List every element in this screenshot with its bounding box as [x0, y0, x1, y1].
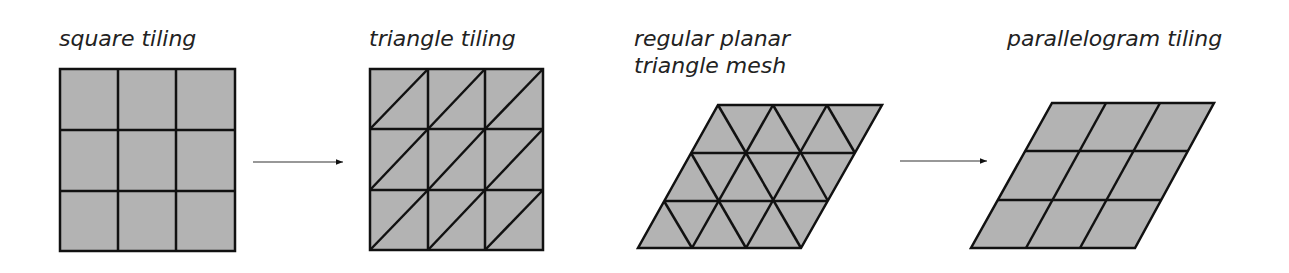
triangle-tiling [370, 69, 543, 250]
triangle-mesh [638, 105, 882, 248]
tiling-diagram [0, 0, 1289, 273]
parallelogram-tiling [971, 103, 1214, 248]
square-tiling [60, 69, 235, 251]
